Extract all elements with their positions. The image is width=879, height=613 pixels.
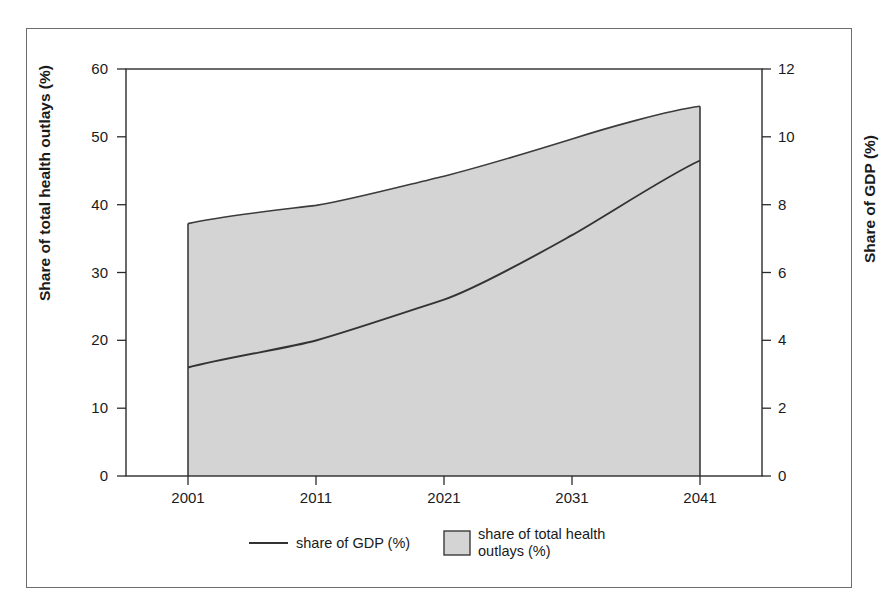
y-left-tick-50: 50: [62, 128, 108, 145]
y-left-tick-40: 40: [62, 196, 108, 213]
x-axis-ticks: [188, 476, 700, 485]
figure-caption: [26, 598, 852, 612]
y-right-tick-10: 10: [778, 128, 824, 145]
y-left-tick-30: 30: [62, 264, 108, 281]
y-axis-left-title: Share of total health outlays (%): [36, 18, 54, 348]
y-right-tick-12: 12: [778, 60, 824, 77]
y-left-tick-20: 20: [62, 331, 108, 348]
x-tick-2011: 2011: [281, 489, 351, 506]
y-right-tick-0: 0: [778, 467, 824, 484]
y-left-tick-60: 60: [62, 60, 108, 77]
legend-swatch-marker: [444, 531, 470, 555]
legend-label-share-of-gdp: share of GDP (%): [296, 535, 410, 552]
y-right-tick-4: 4: [778, 331, 824, 348]
x-tick-2001: 2001: [153, 489, 223, 506]
x-tick-2031: 2031: [537, 489, 607, 506]
area-series-health-outlays: [188, 106, 700, 476]
legend-label-health-outlays-line2: outlays (%): [478, 543, 551, 560]
x-tick-2021: 2021: [409, 489, 479, 506]
y-axis-right-ticks: [762, 69, 771, 476]
y-left-tick-10: 10: [62, 399, 108, 416]
legend-label-health-outlays-line1: share of total health: [478, 526, 605, 543]
x-tick-2041: 2041: [665, 489, 735, 506]
y-right-tick-8: 8: [778, 196, 824, 213]
y-left-tick-0: 0: [62, 467, 108, 484]
y-axis-left-ticks: [117, 69, 126, 476]
y-right-tick-6: 6: [778, 264, 824, 281]
y-right-tick-2: 2: [778, 399, 824, 416]
y-axis-right-title: Share of GDP (%): [861, 49, 879, 349]
